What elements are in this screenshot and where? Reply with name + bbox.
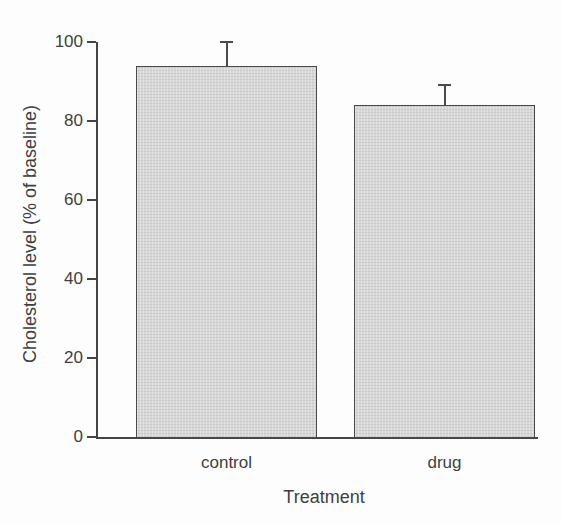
bar-drug — [354, 105, 535, 438]
y-tick-label: 20 — [33, 347, 83, 369]
error-bar-drug — [444, 85, 446, 105]
y-tick — [87, 199, 96, 201]
y-tick — [87, 120, 96, 122]
error-bar-cap-control — [220, 41, 233, 43]
category-label-drug: drug — [375, 452, 515, 474]
y-tick — [87, 436, 96, 438]
x-axis-title: Treatment — [224, 486, 424, 508]
y-tick-label: 0 — [33, 426, 83, 448]
category-label-control: control — [157, 452, 297, 474]
y-tick — [87, 41, 96, 43]
error-bar-control — [226, 42, 228, 66]
y-tick-label: 60 — [33, 189, 83, 211]
y-tick-label: 100 — [33, 31, 83, 53]
error-bar-cap-drug — [438, 84, 451, 86]
bar-chart-figure: Cholesterol level (% of baseline) Treatm… — [0, 0, 562, 523]
y-axis-line — [96, 42, 98, 439]
bar-control — [136, 66, 317, 438]
y-tick — [87, 278, 96, 280]
y-tick-label: 40 — [33, 268, 83, 290]
y-tick-label: 80 — [33, 110, 83, 132]
y-tick — [87, 357, 96, 359]
